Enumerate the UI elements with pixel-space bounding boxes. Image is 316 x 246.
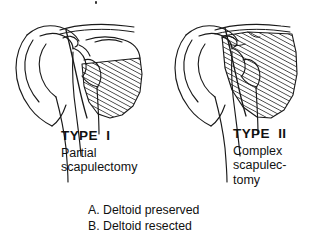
type-2-resection-hatch: [210, 26, 310, 126]
legend-item-b: B. Deltoid resected: [88, 219, 199, 235]
legend-item-a: A. Deltoid preserved: [88, 203, 199, 219]
type-1-heading: TYPE I: [61, 129, 137, 144]
type-2-description-line-1: Complex: [233, 144, 287, 159]
type-2-description-line-2: scapulec-: [233, 158, 287, 173]
scan-speck: [95, 1, 97, 4]
type-2-description-line-3: tomy: [233, 173, 287, 188]
type-1-description-line-2: scapulectomy: [61, 160, 137, 175]
type-2-label: TYPE II Complex scapulec- tomy: [233, 127, 287, 187]
legend: A. Deltoid preserved B. Deltoid resected: [88, 203, 199, 234]
scapulectomy-figure: TYPE I Partial scapulectomy TYPE II Comp…: [0, 0, 316, 246]
type-1-label: TYPE I Partial scapulectomy: [61, 129, 137, 175]
type-2-heading: TYPE II: [233, 127, 287, 142]
type-1-description-line-1: Partial: [61, 146, 137, 161]
